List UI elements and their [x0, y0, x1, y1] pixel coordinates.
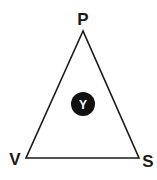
- triangle-diagram: P V S Y: [0, 0, 157, 180]
- center-node-label: Y: [79, 98, 87, 112]
- vertex-label-v: V: [9, 150, 21, 169]
- vertex-label-p: P: [77, 10, 88, 29]
- vertex-label-s: S: [142, 152, 153, 171]
